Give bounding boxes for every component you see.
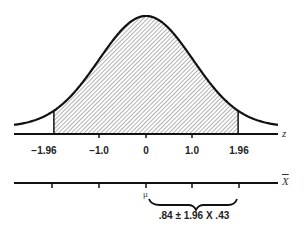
z-axis-label: z: [282, 127, 286, 139]
z-tick-label: −1.0: [89, 145, 109, 156]
mu-label: μ: [143, 189, 148, 199]
shaded-area: [54, 16, 238, 134]
z-tick-label: 1.0: [185, 145, 199, 156]
interval-brace: [149, 199, 237, 210]
xbar-axis-label: X: [282, 175, 289, 187]
interval-formula: .84 ± 1.96 X .43: [159, 210, 230, 221]
z-tick-label: 0: [143, 145, 149, 156]
z-tick-label: −1.96: [31, 145, 56, 156]
normal-curve-diagram: [0, 0, 306, 234]
z-tick-label: 1.96: [229, 145, 248, 156]
